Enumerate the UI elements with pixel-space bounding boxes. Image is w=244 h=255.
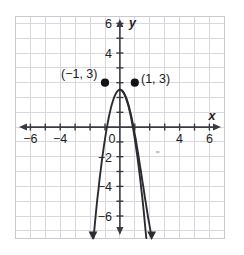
point-marker-minus1-3[interactable]: [101, 79, 109, 87]
y-tick-label-minus4: −4: [98, 180, 112, 194]
y-tick-label-minus6: −6: [98, 210, 112, 224]
y-tick-label-4: 4: [105, 47, 112, 61]
y-axis-label: y: [128, 16, 137, 30]
annotation-point-1-3: (1, 3): [141, 72, 170, 86]
x-tick-label-minus4: −4: [53, 132, 67, 146]
x-axis-label: x: [208, 109, 217, 123]
x-tick-label-6: 6: [206, 132, 213, 146]
point-marker-1-3[interactable]: [131, 79, 139, 87]
y-tick-label-minus2: −2: [98, 151, 112, 165]
origin-label: 0: [109, 132, 116, 146]
scan-artifact-speck: [156, 151, 160, 153]
coordinate-plane-plot: y x 6 4 −2 −4 −6 −6 −4 4 6 0 (−1, 3) (1,…: [0, 0, 244, 255]
annotation-point-minus1-3: (−1, 3): [61, 67, 97, 81]
graph-figure: Graph of a quartic function with two mar…: [0, 0, 244, 255]
x-tick-label-minus6: −6: [23, 132, 37, 146]
y-tick-label-6: 6: [105, 17, 112, 31]
x-tick-label-4: 4: [176, 132, 183, 146]
